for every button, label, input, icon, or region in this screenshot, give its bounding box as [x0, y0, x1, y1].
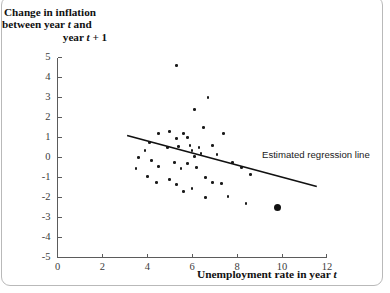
data-point: [227, 195, 230, 198]
y-axis-tick-label: 5: [29, 52, 51, 62]
data-point: [231, 161, 234, 164]
data-point: [200, 152, 203, 155]
data-point: [189, 144, 192, 147]
data-point: [168, 130, 171, 133]
data-point: [175, 137, 178, 140]
data-point: [186, 162, 189, 165]
x-axis-tick: [282, 254, 283, 258]
data-point: [144, 149, 147, 152]
plot-area: -5-4-3-2-1012345024681012: [0, 0, 390, 293]
x-axis-tick-label: 10: [271, 262, 293, 272]
data-point: [157, 132, 160, 135]
y-axis-tick: [58, 237, 62, 238]
x-axis-tick: [147, 254, 148, 258]
data-point: [249, 173, 252, 176]
y-axis-tick: [58, 157, 62, 158]
data-point: [222, 132, 225, 135]
data-point: [135, 167, 138, 170]
y-axis-tick: [58, 57, 62, 58]
x-axis-tick-label: 2: [91, 262, 113, 272]
data-point: [202, 126, 205, 129]
data-point: [157, 165, 160, 168]
data-point: [175, 64, 178, 67]
x-axis-tick-label: 4: [136, 262, 158, 272]
data-point: [182, 190, 185, 193]
y-axis-tick: [58, 137, 62, 138]
y-axis-tick-label: -1: [29, 172, 51, 182]
y-axis-tick-label: -5: [29, 252, 51, 262]
data-point: [175, 183, 178, 186]
x-axis-tick-label: 0: [47, 262, 69, 272]
x-axis-tick: [102, 254, 103, 258]
data-point: [207, 96, 210, 99]
y-axis-tick: [58, 257, 62, 258]
x-axis-tick-label: 8: [226, 262, 248, 272]
x-axis-tick: [192, 254, 193, 258]
y-axis-tick-label: 0: [29, 152, 51, 162]
inflation-unemployment-scatter-figure: Change in inflation between year t and y…: [0, 0, 390, 293]
data-point: [204, 176, 207, 179]
data-point: [245, 202, 248, 205]
y-axis-tick-label: 2: [29, 112, 51, 122]
data-point: [240, 166, 243, 169]
data-point: [191, 149, 194, 152]
y-axis-tick-label: 4: [29, 72, 51, 82]
data-point: [220, 182, 223, 185]
data-point: [211, 144, 214, 147]
data-point: [150, 159, 153, 162]
data-point: [148, 141, 151, 144]
data-point: [166, 146, 169, 149]
data-point: [155, 181, 158, 184]
data-point: [216, 153, 219, 156]
data-point: [182, 132, 185, 135]
y-axis-tick: [58, 117, 62, 118]
y-axis-tick: [58, 97, 62, 98]
data-point: [193, 155, 196, 158]
data-point: [137, 156, 140, 159]
x-axis-tick-label: 12: [316, 262, 338, 272]
regression-line-annotation: Estimated regression line: [262, 149, 370, 160]
y-axis-tick: [58, 177, 62, 178]
data-point: [191, 187, 194, 190]
data-point: [180, 167, 183, 170]
data-point: [186, 136, 189, 139]
y-axis-tick: [58, 77, 62, 78]
data-point: [168, 178, 171, 181]
x-axis-tick: [237, 254, 238, 258]
data-point: [211, 181, 214, 184]
data-point: [198, 146, 201, 149]
x-axis-tick-label: 6: [181, 262, 203, 272]
data-point: [193, 108, 196, 111]
y-axis-tick-label: -2: [29, 192, 51, 202]
data-point-emphasized: [274, 204, 281, 211]
data-point: [204, 196, 207, 199]
data-point: [177, 145, 180, 148]
y-axis-tick: [58, 197, 62, 198]
x-axis-tick: [326, 254, 327, 258]
data-point: [146, 175, 149, 178]
y-axis-tick-label: -3: [29, 212, 51, 222]
data-point: [195, 166, 198, 169]
data-point: [173, 161, 176, 164]
y-axis-tick-label: -4: [29, 232, 51, 242]
y-axis-tick-label: 1: [29, 132, 51, 142]
y-axis-tick-label: 3: [29, 92, 51, 102]
y-axis-tick: [58, 217, 62, 218]
